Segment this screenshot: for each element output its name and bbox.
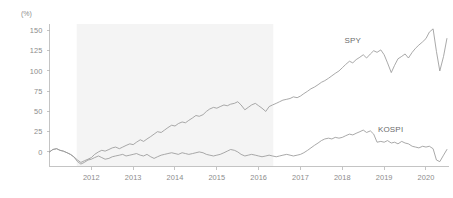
x-tick-label: 2019 — [376, 173, 393, 182]
chart-container: 0255075100125150201220132014201520162017… — [0, 0, 453, 198]
x-tick-label: 2016 — [250, 173, 267, 182]
line-chart: 0255075100125150201220132014201520162017… — [0, 0, 453, 198]
y-tick-label: 100 — [30, 67, 43, 76]
x-tick-label: 2014 — [167, 173, 184, 182]
x-tick-label: 2018 — [334, 173, 351, 182]
y-tick-label: 0 — [38, 148, 42, 157]
y-tick-label: 150 — [30, 26, 43, 35]
x-tick-label: 2020 — [418, 173, 435, 182]
y-tick-label: 125 — [30, 46, 43, 55]
series-label-spy: SPY — [344, 36, 361, 45]
y-axis-unit-label: (%) — [21, 10, 32, 18]
series-label-kospi: KOSPI — [378, 125, 403, 134]
x-tick-label: 2012 — [83, 173, 100, 182]
shaded-period — [77, 24, 274, 167]
shaded-period-band-layer — [77, 24, 274, 167]
x-tick-label: 2017 — [292, 173, 309, 182]
x-tick-label: 2015 — [208, 173, 225, 182]
y-tick-label: 50 — [34, 107, 42, 116]
x-tick-label: 2013 — [125, 173, 142, 182]
y-tick-label: 25 — [34, 127, 42, 136]
y-tick-label: 75 — [34, 87, 42, 96]
